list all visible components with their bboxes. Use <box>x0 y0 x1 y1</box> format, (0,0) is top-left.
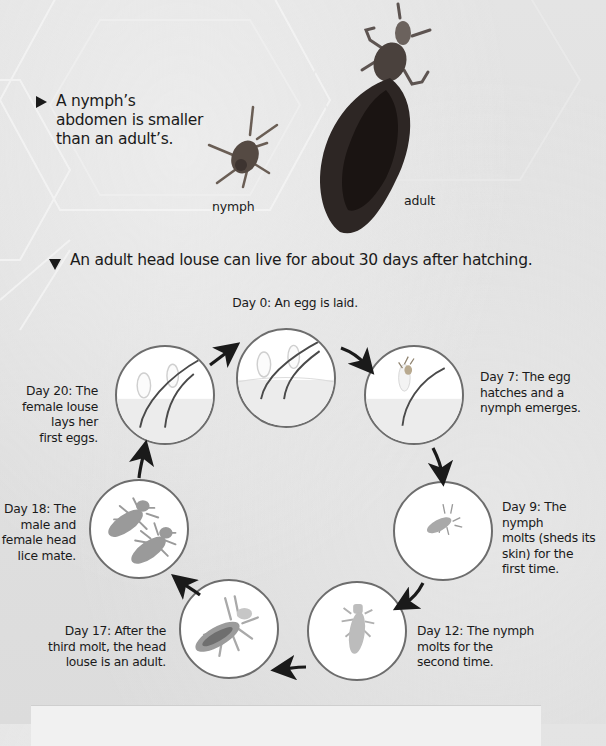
day-18-caption: Day 18: The male and female head lice ma… <box>0 502 76 564</box>
day-20-caption: Day 20: The female louse lays her first … <box>10 384 98 446</box>
caption-line: Day 20: The <box>10 384 98 400</box>
caption-line: female louse <box>10 400 98 416</box>
caption-line: third molt, the head <box>30 640 166 656</box>
caption-line: male and <box>0 518 76 534</box>
caption-line: first eggs. <box>10 431 98 447</box>
caption-line: second time. <box>417 655 557 671</box>
arrow-day18-to-day20 <box>139 452 144 478</box>
caption-line: first time. <box>502 562 606 578</box>
caption-line: Day 17: After the <box>30 624 166 640</box>
caption-line: hatches and a <box>480 386 600 402</box>
arrow-day9-to-day12 <box>404 583 423 604</box>
bottom-info-panel <box>31 705 541 746</box>
caption-line: molts (sheds its <box>502 531 606 547</box>
day-17-caption: Day 17: After the third molt, the head l… <box>30 624 166 671</box>
caption-line: louse is an adult. <box>30 655 166 671</box>
day-12-caption: Day 12: The nymph molts for the second t… <box>417 624 557 671</box>
arrow-day17-to-day18 <box>181 582 200 595</box>
day-7-caption: Day 7: The egg hatches and a nymph emerg… <box>480 370 600 417</box>
caption-line: lice mate. <box>0 549 76 565</box>
arrow-day7-to-day9 <box>433 448 442 474</box>
day-9-caption: Day 9: The nymph molts (sheds its skin) … <box>502 500 606 578</box>
caption-line: molts for the <box>417 640 557 656</box>
arrow-day20-to-day0 <box>210 350 230 365</box>
caption-line: nymph emerges. <box>480 401 600 417</box>
caption-line: Day 18: The <box>0 502 76 518</box>
caption-line: female head <box>0 533 76 549</box>
caption-line: Day 9: The nymph <box>502 500 606 531</box>
arrow-day0-to-day7 <box>341 348 366 365</box>
arrow-day12-to-day17 <box>283 667 306 669</box>
caption-line: Day 7: The egg <box>480 370 600 386</box>
caption-line: lays her <box>10 415 98 431</box>
caption-line: skin) for the <box>502 547 606 563</box>
caption-line: Day 12: The nymph <box>417 624 557 640</box>
